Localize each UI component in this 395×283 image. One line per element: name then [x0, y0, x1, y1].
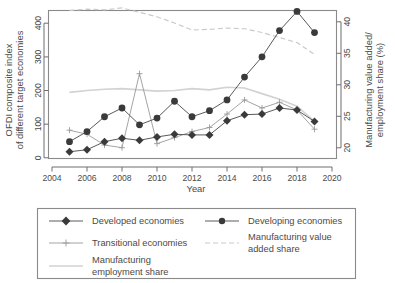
y-axis-left-title-line2: of different target economies: [14, 30, 25, 149]
data-point-marker-diamond: [66, 148, 74, 156]
data-point-marker-circle: [119, 105, 126, 112]
data-point-marker-circle: [276, 27, 283, 34]
legend-entry-developed-economies: Developed economies: [49, 216, 184, 226]
legend-label-manufacturing-employment-share-line2: employment share: [92, 267, 168, 277]
y-right-tick-25: 25: [342, 111, 352, 121]
data-point-marker-circle: [311, 29, 318, 36]
y-axis-left-ticks: [44, 23, 49, 158]
data-point-marker-circle: [241, 74, 248, 81]
data-point-marker-circle: [154, 115, 161, 122]
x-tick-2014: 2014: [217, 173, 236, 183]
legend-entry-manufacturing-employment-share: Manufacturing employment share: [49, 255, 168, 277]
y-axis-left-title-line1: OFDI composite index: [3, 43, 14, 136]
data-point-marker-circle: [224, 97, 231, 104]
legend-label-developing-economies: Developing economies: [248, 216, 342, 226]
y-left-tick-200: 200: [33, 83, 43, 98]
legend-label-manufacturing-employment-share-line1: Manufacturing: [92, 255, 151, 265]
y-left-tick-400: 400: [33, 16, 43, 31]
data-point-marker-diamond: [136, 136, 144, 144]
chart-figure: OFDI composite index of different target…: [0, 0, 395, 283]
x-tick-2006: 2006: [77, 173, 96, 183]
y-right-tick-30: 30: [342, 80, 352, 90]
legend-diamond-icon: [62, 217, 71, 226]
legend-label-developed-economies: Developed economies: [92, 216, 184, 226]
y-left-tick-0: 0: [33, 155, 43, 160]
ofdi-composite-index-chart: OFDI composite index of different target…: [0, 0, 395, 283]
legend-circle-icon: [219, 218, 225, 224]
x-tick-2004: 2004: [42, 173, 61, 183]
y-left-tick-300: 300: [33, 50, 43, 65]
legend-label-transitional-economies: Transitional economies: [92, 238, 188, 248]
x-tick-2018: 2018: [287, 173, 306, 183]
legend-entry-manufacturing-value-added-share: Manufacturing value added share: [205, 232, 332, 254]
x-tick-2020: 2020: [322, 173, 341, 183]
data-point-marker-circle: [66, 138, 73, 145]
y-axis-right-ticks: [337, 22, 342, 148]
data-point-marker-circle: [84, 128, 91, 135]
y-axis-left-tick-labels: 400 300 200 100 0: [33, 16, 43, 160]
series-layer: [66, 8, 319, 156]
y-right-tick-35: 35: [342, 48, 352, 58]
legend-entry-developing-economies: Developing economies: [205, 216, 342, 226]
data-point-marker-circle: [136, 121, 143, 128]
data-point-marker-circle: [171, 98, 178, 105]
y-right-tick-40: 40: [342, 17, 352, 27]
legend-entry-transitional-economies: Transitional economies: [49, 238, 188, 248]
x-tick-2008: 2008: [112, 173, 131, 183]
legend-label-manufacturing-value-added-share-line1: Manufacturing value: [248, 232, 332, 242]
legend-label-manufacturing-value-added-share-line2: added share: [248, 244, 300, 254]
y-left-tick-100: 100: [33, 117, 43, 132]
data-point-marker-circle: [294, 8, 301, 15]
data-point-marker-circle: [101, 113, 108, 120]
x-axis-tick-labels: 2004 2006 2008 2010 2012 2014 2016 2018 …: [42, 173, 341, 183]
data-point-marker-circle: [259, 53, 266, 60]
x-tick-2012: 2012: [182, 173, 201, 183]
data-point-marker-diamond: [101, 138, 109, 146]
data-point-marker-diamond: [241, 111, 249, 119]
data-point-marker-circle: [189, 113, 196, 120]
x-axis-title: Year: [187, 183, 206, 194]
data-point-marker-circle: [206, 107, 213, 114]
x-axis-ticks: [52, 167, 332, 172]
y-right-tick-20: 20: [342, 143, 352, 153]
y-axis-right-title-line1: Manufacturing value added/: [363, 32, 374, 148]
x-tick-2010: 2010: [147, 173, 166, 183]
data-point-marker-diamond: [258, 110, 266, 118]
y-axis-right-tick-labels: 40 35 30 25 20: [342, 17, 352, 153]
data-point-marker-diamond: [83, 146, 91, 154]
series-markers-developing-economies: [66, 8, 318, 145]
data-point-marker-diamond: [276, 104, 284, 112]
x-tick-2016: 2016: [252, 173, 271, 183]
y-axis-right-title-line2: employment share (%): [374, 43, 385, 137]
